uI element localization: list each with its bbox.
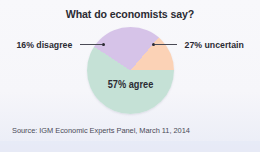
leader-line-segment <box>80 44 102 45</box>
callout-disagree: 16% disagree <box>14 39 105 50</box>
page-title: What do economists say? <box>10 8 249 20</box>
leader-line-segment <box>155 44 177 45</box>
leader-dot-icon <box>102 43 105 46</box>
source-note: Source: IGM Economic Experts Panel, Marc… <box>12 126 190 135</box>
callout-disagree-label: 16% disagree <box>16 39 72 50</box>
callout-uncertain-label: 27% uncertain <box>185 39 244 50</box>
chart-figure: What do economists say? 57% agree 16% di… <box>0 0 260 152</box>
leader-line-icon-left <box>80 41 105 48</box>
leader-line-icon-right <box>152 41 177 48</box>
callout-uncertain: 27% uncertain <box>152 39 246 50</box>
